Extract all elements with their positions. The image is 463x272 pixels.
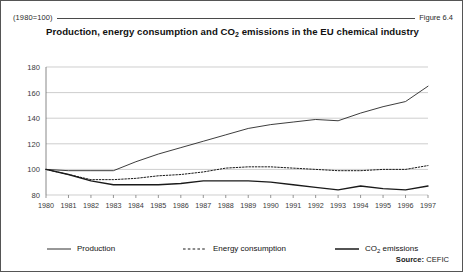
plot-area [46,67,428,195]
x-axis-tick-label: 1991 [285,201,301,210]
x-axis-tick-label: 1990 [263,201,279,210]
x-axis-tick-label: 1982 [83,201,99,210]
legend-label: CO2 emissions [365,244,418,253]
x-axis-tick-label: 1995 [375,201,391,210]
x-axis-tick-label: 1980 [38,201,54,210]
plot-svg [46,67,428,195]
x-axis-tick-label: 1988 [218,201,234,210]
x-axis-tick-label: 1997 [420,201,436,210]
y-axis-tick-label: 180 [16,63,40,72]
legend-label-text-suffix: emissions [380,244,418,253]
source-note: Source: CEFIC [396,255,449,264]
legend-label-subscript: 2 [377,248,380,254]
y-axis-tick-label: 160 [16,88,40,97]
series-lines [46,86,428,190]
x-axis-tick-label: 1993 [330,201,346,210]
x-axis-tick-label: 1994 [353,201,369,210]
x-axis-tick-label: 1989 [240,201,256,210]
legend-label: Energy consumption [213,244,286,253]
source-label: Source: [396,255,424,264]
legend-item: Energy consumption [183,244,286,253]
x-axis-tick-label: 1985 [150,201,166,210]
x-axis-tick-labels: 1980198119821983198419851986198719881989… [46,201,428,213]
source-value: CEFIC [426,255,449,264]
legend-swatch-icon [335,246,359,252]
legend-label-text: Production [77,244,115,253]
chart-title-part-1: Production, energy consumption and CO [46,26,235,37]
chart-title-subscript: 2 [235,31,239,38]
legend-item: Production [47,244,115,253]
legend-label: Production [77,244,115,253]
y-axis-tick-label: 80 [16,191,40,200]
chart-legend: ProductionEnergy consumptionCO2 emission… [47,244,422,258]
y-axis-tick-labels: 80100120140160180 [14,67,40,195]
chart-title: Production, energy consumption and CO2 e… [1,26,463,37]
legend-swatch-icon [47,246,71,252]
figure-frame: (1980=100) Figure 6.4 Production, energy… [0,0,463,272]
series-line [46,166,428,180]
base-index-note: (1980=100) [13,13,53,22]
legend-swatch-icon [183,246,207,252]
x-axis-tick-label: 1984 [128,201,144,210]
figure-header: (1980=100) Figure 6.4 [13,11,453,23]
x-axis-tick-label: 1986 [173,201,189,210]
gridlines [46,67,428,195]
x-axis-tick-label: 1996 [398,201,414,210]
header-rule [57,18,416,19]
legend-item: CO2 emissions [335,244,418,253]
y-axis-tick-label: 100 [16,165,40,174]
x-axis-tick-label: 1992 [308,201,324,210]
x-axis-tick-label: 1983 [105,201,121,210]
chart-title-part-2: emissions in the EU chemical industry [239,26,419,37]
figure-number-label: Figure 6.4 [419,13,453,22]
legend-label-text: Energy consumption [213,244,286,253]
series-line [46,86,428,170]
y-axis-tick-label: 140 [16,114,40,123]
x-axis-tick-label: 1987 [195,201,211,210]
legend-label-text: CO [365,244,377,253]
x-axis-tick-label: 1981 [60,201,76,210]
y-axis-tick-label: 120 [16,139,40,148]
x-axis-ticks [46,195,428,198]
